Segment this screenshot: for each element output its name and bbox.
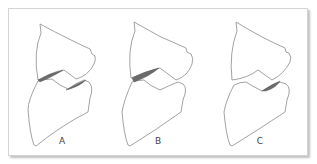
upper-bone-b <box>130 22 193 80</box>
upper-bone-a <box>36 24 95 80</box>
panel-b: B <box>122 22 193 146</box>
lower-bone-b <box>122 80 186 146</box>
panel-a: A <box>28 24 95 146</box>
panel-label-b: B <box>155 136 161 146</box>
joint-diagram: A B C <box>0 0 317 164</box>
upper-bone-c <box>231 22 291 80</box>
panel-label-c: C <box>257 136 263 146</box>
panel-label-a: A <box>59 136 66 146</box>
panel-c: C <box>224 22 291 146</box>
